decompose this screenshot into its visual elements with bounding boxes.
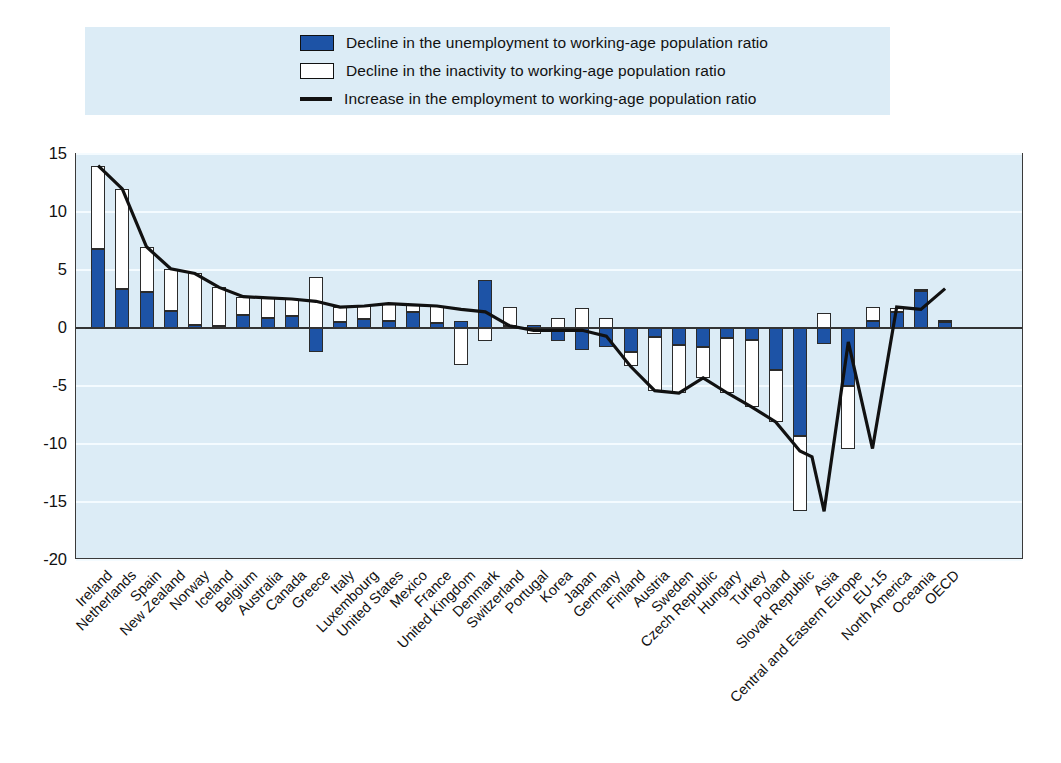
legend-label-unemployment: Decline in the unemployment to working-a…	[346, 34, 768, 52]
chart-legend: Decline in the unemployment to working-a…	[85, 27, 890, 115]
y-axis-tick-label: 15	[21, 144, 67, 163]
legend-label-employment: Increase in the employment to working-ag…	[344, 90, 756, 108]
y-axis-tick-label: 10	[21, 202, 67, 221]
blue-square-icon	[300, 35, 334, 51]
employment-line-series	[76, 154, 1024, 560]
white-square-icon	[300, 63, 334, 79]
y-axis-tick-label: -20	[21, 550, 67, 569]
y-axis-tick-label: -10	[21, 434, 67, 453]
legend-item-inactivity: Decline in the inactivity to working-age…	[300, 58, 726, 84]
chart-plot-area	[75, 153, 1023, 559]
legend-item-employment: Increase in the employment to working-ag…	[300, 86, 756, 112]
y-axis-tick-label: 0	[21, 318, 67, 337]
black-line-icon	[300, 97, 332, 101]
legend-label-inactivity: Decline in the inactivity to working-age…	[346, 62, 726, 80]
y-axis-tick-label: 5	[21, 260, 67, 279]
employment-line-path	[98, 166, 945, 512]
legend-item-unemployment: Decline in the unemployment to working-a…	[300, 30, 768, 56]
y-axis-tick-label: -5	[21, 376, 67, 395]
y-axis-tick-label: -15	[21, 492, 67, 511]
